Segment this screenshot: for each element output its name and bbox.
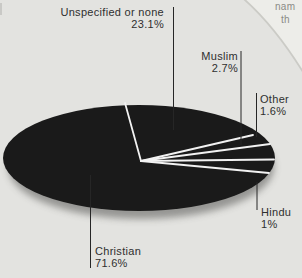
slice-name-christian: Christian [95, 246, 141, 258]
page-text-fragment-1: nam [275, 2, 295, 12]
slice-name-hindu: Hindu [261, 207, 291, 219]
religion-pie-chart-figure: Unspecified or none 23.1% Muslim 2.7% Ot… [0, 0, 302, 278]
label-other: Other 1.6% [260, 94, 289, 117]
slice-percent-christian: 71.6% [95, 258, 141, 270]
pie-ellipse [3, 105, 275, 211]
slice-percent-muslim: 2.7% [201, 63, 238, 75]
label-muslim: Muslim 2.7% [201, 51, 238, 74]
label-unspecified-or-none: Unspecified or none 23.1% [60, 7, 164, 30]
slice-name-muslim: Muslim [201, 51, 238, 63]
slice-name-unspecified: Unspecified or none [60, 7, 164, 19]
slice-percent-hindu: 1% [261, 219, 291, 231]
page-text-fragment-2: th [281, 15, 290, 25]
label-hindu: Hindu 1% [261, 207, 291, 230]
label-christian: Christian 71.6% [95, 246, 141, 269]
scan-edge-artifact [0, 3, 2, 15]
slice-percent-other: 1.6% [260, 106, 289, 118]
slice-percent-unspecified: 23.1% [60, 19, 164, 31]
slice-name-other: Other [260, 94, 289, 106]
pie-chart-canvas [0, 0, 302, 278]
